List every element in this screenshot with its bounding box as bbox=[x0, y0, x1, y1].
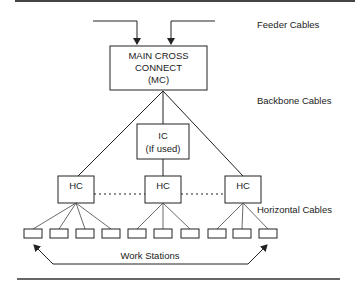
work-station bbox=[233, 229, 251, 238]
hc-label: HC bbox=[236, 180, 250, 191]
mc-label-line1: MAIN CROSS bbox=[128, 50, 188, 61]
work-station bbox=[76, 229, 94, 238]
feeder-cables-label: Feeder Cables bbox=[257, 19, 320, 30]
work-station bbox=[102, 229, 120, 238]
horizontal-cross-connect-2: HC bbox=[145, 176, 181, 203]
feeder-cable-left bbox=[93, 21, 137, 44]
backbone-cables-label: Backbone Cables bbox=[257, 95, 332, 106]
work-station bbox=[181, 229, 199, 238]
work-stations-label: Work Stations bbox=[121, 250, 180, 261]
work-station bbox=[154, 229, 172, 238]
ic-label-line2: (If used) bbox=[146, 143, 181, 154]
feeder-cable-right bbox=[171, 21, 215, 44]
ic-label-line1: IC bbox=[158, 130, 168, 141]
mc-label-line3: (MC) bbox=[148, 74, 169, 85]
main-cross-connect-box: MAIN CROSS CONNECT (MC) bbox=[110, 46, 207, 90]
hc-label: HC bbox=[156, 180, 170, 191]
horizontal-cables-label: Horizontal Cables bbox=[257, 204, 332, 215]
mc-label-line2: CONNECT bbox=[135, 62, 182, 73]
horizontal-cross-connect-3: HC bbox=[225, 176, 261, 203]
cabling-hierarchy-diagram: Feeder Cables MAIN CROSS CONNECT (MC) Ba… bbox=[0, 0, 358, 282]
work-station bbox=[259, 229, 277, 238]
work-station bbox=[50, 229, 68, 238]
hc-label: HC bbox=[69, 180, 83, 191]
horizontal-cables bbox=[33, 203, 268, 229]
work-station bbox=[24, 229, 42, 238]
horizontal-cross-connect-1: HC bbox=[58, 176, 94, 203]
work-stations bbox=[24, 229, 277, 238]
work-station bbox=[128, 229, 146, 238]
work-station bbox=[208, 229, 226, 238]
intermediate-cross-connect-box: IC (If used) bbox=[137, 124, 189, 159]
